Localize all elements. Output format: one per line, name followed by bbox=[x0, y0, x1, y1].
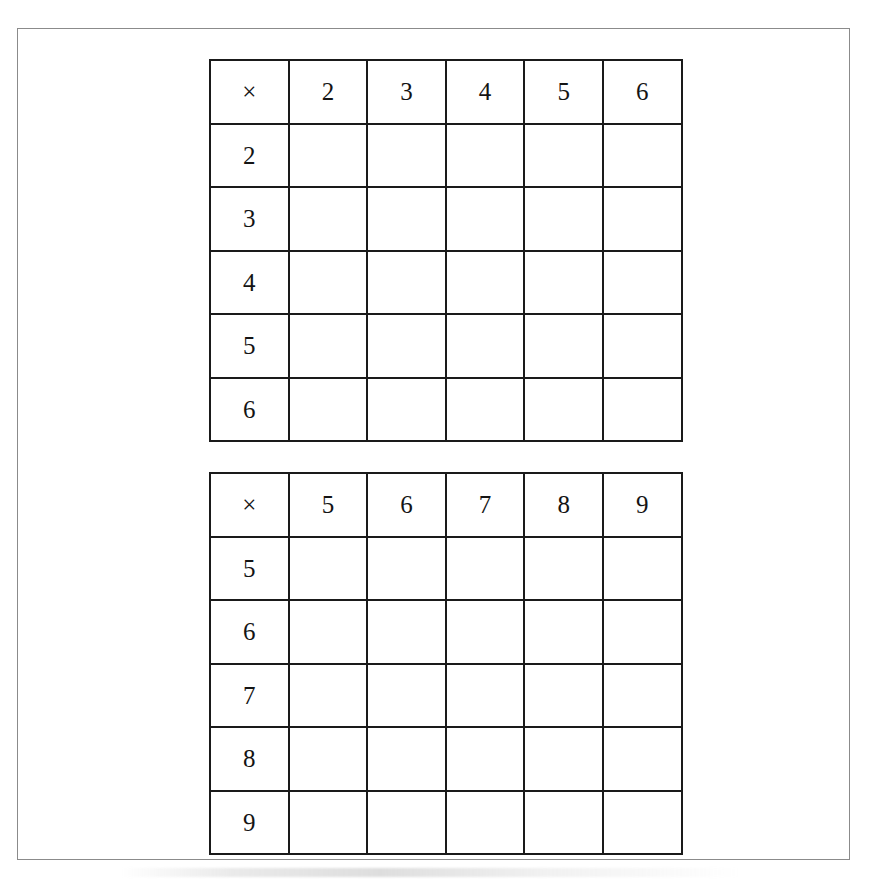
answer-cell[interactable] bbox=[367, 791, 446, 855]
answer-cell[interactable] bbox=[289, 124, 368, 188]
answer-cell[interactable] bbox=[524, 378, 603, 442]
row-header-cell: 8 bbox=[210, 727, 289, 791]
table-row: 6 bbox=[210, 378, 682, 442]
answer-cell[interactable] bbox=[446, 664, 525, 728]
answer-cell[interactable] bbox=[446, 727, 525, 791]
answer-cell[interactable] bbox=[524, 124, 603, 188]
multiplication-tables-container: × 2 3 4 5 6 2 3 bbox=[209, 59, 671, 855]
answer-cell[interactable] bbox=[524, 791, 603, 855]
answer-cell[interactable] bbox=[289, 378, 368, 442]
row-header-cell: 9 bbox=[210, 791, 289, 855]
table-row: 8 bbox=[210, 727, 682, 791]
answer-cell[interactable] bbox=[289, 314, 368, 378]
answer-cell[interactable] bbox=[289, 664, 368, 728]
multiplication-grid-2-to-6: × 2 3 4 5 6 2 3 bbox=[209, 59, 683, 442]
row-header-cell: 7 bbox=[210, 664, 289, 728]
table-row: 7 bbox=[210, 664, 682, 728]
table-row: 9 bbox=[210, 791, 682, 855]
row-header-cell: 2 bbox=[210, 124, 289, 188]
table-row: 2 bbox=[210, 124, 682, 188]
column-header-cell: 4 bbox=[446, 60, 525, 124]
row-header-cell: 5 bbox=[210, 537, 289, 601]
answer-cell[interactable] bbox=[446, 124, 525, 188]
answer-cell[interactable] bbox=[603, 187, 682, 251]
row-header-cell: 3 bbox=[210, 187, 289, 251]
column-header-cell: 9 bbox=[603, 473, 682, 537]
answer-cell[interactable] bbox=[367, 251, 446, 315]
table-header-row: × 5 6 7 8 9 bbox=[210, 473, 682, 537]
answer-cell[interactable] bbox=[446, 537, 525, 601]
answer-cell[interactable] bbox=[289, 537, 368, 601]
answer-cell[interactable] bbox=[289, 187, 368, 251]
answer-cell[interactable] bbox=[524, 187, 603, 251]
answer-cell[interactable] bbox=[367, 314, 446, 378]
answer-cell[interactable] bbox=[524, 664, 603, 728]
column-header-cell: 3 bbox=[367, 60, 446, 124]
answer-cell[interactable] bbox=[367, 124, 446, 188]
answer-cell[interactable] bbox=[367, 187, 446, 251]
table-row: 6 bbox=[210, 600, 682, 664]
multiplication-grid-5-to-9: × 5 6 7 8 9 5 6 bbox=[209, 472, 683, 855]
row-header-cell: 5 bbox=[210, 314, 289, 378]
worksheet-page-sheet: × 2 3 4 5 6 2 3 bbox=[17, 28, 850, 860]
table-row: 4 bbox=[210, 251, 682, 315]
table-header-row: × 2 3 4 5 6 bbox=[210, 60, 682, 124]
column-header-cell: 6 bbox=[367, 473, 446, 537]
operator-symbol-cell: × bbox=[210, 473, 289, 537]
scan-artifact-smudge bbox=[120, 868, 740, 877]
answer-cell[interactable] bbox=[289, 727, 368, 791]
answer-cell[interactable] bbox=[603, 600, 682, 664]
row-header-cell: 6 bbox=[210, 378, 289, 442]
column-header-cell: 7 bbox=[446, 473, 525, 537]
answer-cell[interactable] bbox=[289, 600, 368, 664]
column-header-cell: 5 bbox=[524, 60, 603, 124]
column-header-cell: 6 bbox=[603, 60, 682, 124]
answer-cell[interactable] bbox=[446, 791, 525, 855]
table-row: 3 bbox=[210, 187, 682, 251]
answer-cell[interactable] bbox=[446, 251, 525, 315]
row-header-cell: 6 bbox=[210, 600, 289, 664]
table-row: 5 bbox=[210, 314, 682, 378]
answer-cell[interactable] bbox=[289, 251, 368, 315]
answer-cell[interactable] bbox=[446, 314, 525, 378]
row-header-cell: 4 bbox=[210, 251, 289, 315]
answer-cell[interactable] bbox=[524, 251, 603, 315]
answer-cell[interactable] bbox=[446, 187, 525, 251]
answer-cell[interactable] bbox=[603, 791, 682, 855]
answer-cell[interactable] bbox=[524, 727, 603, 791]
answer-cell[interactable] bbox=[367, 537, 446, 601]
answer-cell[interactable] bbox=[524, 314, 603, 378]
answer-cell[interactable] bbox=[289, 791, 368, 855]
answer-cell[interactable] bbox=[603, 314, 682, 378]
answer-cell[interactable] bbox=[603, 124, 682, 188]
answer-cell[interactable] bbox=[367, 664, 446, 728]
column-header-cell: 8 bbox=[524, 473, 603, 537]
answer-cell[interactable] bbox=[603, 251, 682, 315]
answer-cell[interactable] bbox=[603, 537, 682, 601]
column-header-cell: 5 bbox=[289, 473, 368, 537]
answer-cell[interactable] bbox=[367, 727, 446, 791]
answer-cell[interactable] bbox=[524, 537, 603, 601]
answer-cell[interactable] bbox=[367, 378, 446, 442]
answer-cell[interactable] bbox=[524, 600, 603, 664]
column-header-cell: 2 bbox=[289, 60, 368, 124]
answer-cell[interactable] bbox=[446, 378, 525, 442]
answer-cell[interactable] bbox=[367, 600, 446, 664]
answer-cell[interactable] bbox=[603, 664, 682, 728]
answer-cell[interactable] bbox=[603, 727, 682, 791]
operator-symbol-cell: × bbox=[210, 60, 289, 124]
table-row: 5 bbox=[210, 537, 682, 601]
answer-cell[interactable] bbox=[603, 378, 682, 442]
answer-cell[interactable] bbox=[446, 600, 525, 664]
